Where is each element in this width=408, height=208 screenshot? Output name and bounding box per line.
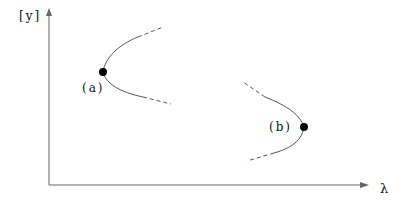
- diagram-svg: [y] λ (a) (b): [0, 0, 408, 208]
- x-axis-arrow-icon: [360, 182, 369, 188]
- curve-b-lower-dashed: [247, 153, 274, 161]
- bifurcation-diagram: [y] λ (a) (b): [0, 0, 408, 208]
- fold-point-a: [99, 68, 107, 76]
- curve-a-lower-branch: [103, 72, 143, 97]
- y-axis-label: [y]: [19, 9, 41, 23]
- fold-point-b: [300, 123, 308, 131]
- point-a-label: (a): [82, 81, 105, 95]
- point-b-label: (b): [269, 120, 292, 134]
- y-axis-arrow-icon: [46, 8, 52, 16]
- curve-a-lower-dashed: [143, 97, 171, 104]
- curve-a-upper-branch: [103, 37, 138, 72]
- curve-b-upper-dashed: [243, 82, 265, 97]
- x-axis-label: λ: [380, 181, 388, 196]
- curve-a-upper-dashed: [138, 27, 163, 37]
